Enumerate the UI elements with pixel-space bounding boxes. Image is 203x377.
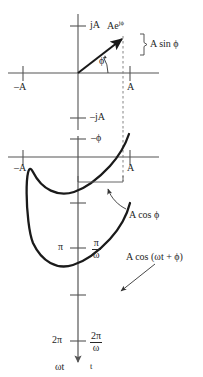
label-minus-jA: –jA: [90, 112, 105, 122]
label-A-phasor: A: [127, 82, 134, 92]
brace-a-sin-phi: [140, 34, 147, 55]
label-a-sin-phi: A sin ϕ: [150, 39, 179, 49]
fraction-denominator: ω: [90, 343, 102, 354]
fraction-numerator: 2π: [90, 331, 102, 343]
label-t-axis: t: [90, 362, 92, 371]
label-jA: jA: [90, 20, 100, 30]
label-minus-phi: –ϕ: [91, 133, 101, 143]
fraction-denominator: ω: [92, 250, 101, 261]
label-pi-over-omega: π ω: [92, 238, 101, 260]
label-phasor-magnitude: Aejϕ: [107, 20, 124, 31]
label-a-cos-wt-phi: A cos (ωt + ϕ): [126, 252, 183, 262]
label-A-waveform: A: [127, 163, 134, 173]
label-a-cos-phi: A cos ϕ: [129, 210, 159, 220]
label-2pi-left: 2π: [52, 335, 62, 345]
label-minus-A-waveform: –A: [14, 163, 26, 173]
label-minus-A-phasor: –A: [14, 82, 26, 92]
fraction-2pi-omega: 2π ω: [90, 331, 102, 353]
label-omega-t-axis: ωt: [55, 362, 64, 372]
figure-container: jA –jA –A A Aejϕ ϕ A sin ϕ –ϕ –A A A cos…: [0, 0, 203, 377]
leader-a-cos-phi: [108, 189, 126, 209]
label-pi-left: π: [58, 242, 63, 252]
label-angle-phi: ϕ: [99, 56, 104, 66]
leader-a-cos-wt-phi: [121, 264, 155, 291]
phasor-label-base: Ae: [107, 20, 119, 31]
phasor-label-exponent: jϕ: [119, 19, 124, 26]
fraction-numerator: π: [92, 238, 101, 250]
fraction-pi-omega: π ω: [92, 238, 101, 260]
label-2pi-over-omega: 2π ω: [90, 331, 102, 353]
